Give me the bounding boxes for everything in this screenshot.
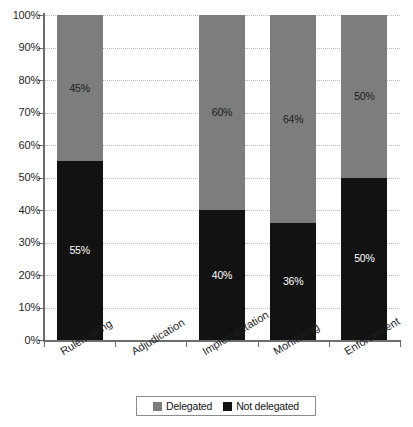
bar-segment-delegated[interactable]: 64% [270,15,316,223]
y-axis-tick-label: 100% [0,10,40,21]
legend-swatch-not-delegated-icon [223,402,232,411]
y-axis-tick-label: 20% [0,270,40,281]
y-axis-line [43,13,45,342]
legend-label-not-delegated: Not delegated [236,401,299,412]
bar-value-label: 45% [69,83,89,94]
x-axis-tick [186,340,187,347]
bar-value-label: 64% [283,114,303,125]
y-axis-tick-label: 40% [0,205,40,216]
bar-group[interactable] [128,15,174,340]
x-axis-tick [329,340,330,347]
stacked-bar-chart: 0%10%20%30%40%50%60%70%80%90%100% 55%45%… [0,0,413,427]
x-axis-tick [44,340,45,347]
bar-segment-delegated[interactable]: 45% [57,15,103,161]
bar-segment-not-delegated[interactable]: 40% [199,210,245,340]
bar-value-label: 60% [212,107,232,118]
legend-swatch-delegated-icon [153,402,162,411]
y-axis-tick-label: 50% [0,172,40,183]
legend-item-delegated: Delegated [153,401,212,412]
bar-group[interactable]: 40%60% [199,15,245,340]
y-axis-tick-label: 10% [0,302,40,313]
y-axis-tick-label: 90% [0,42,40,53]
bar-group[interactable]: 36%64% [270,15,316,340]
bar-segment-not-delegated[interactable]: 55% [57,161,103,340]
y-axis-tick-label: 60% [0,140,40,151]
bar-value-label: 36% [283,276,303,287]
x-axis-tick [400,340,401,347]
bar-value-label: 55% [69,245,89,256]
y-axis-tick-label: 0% [0,335,40,346]
y-axis-tick-label: 30% [0,237,40,248]
legend-item-not-delegated: Not delegated [223,401,299,412]
y-axis-tick-label: 70% [0,107,40,118]
bar-group[interactable]: 50%50% [341,15,387,340]
x-axis-tick [115,340,116,347]
legend-label-delegated: Delegated [166,401,212,412]
bar-value-label: 50% [354,91,374,102]
bar-segment-delegated[interactable]: 60% [199,15,245,210]
bar-value-label: 50% [354,253,374,264]
bar-segment-not-delegated[interactable]: 50% [341,178,387,341]
bar-group[interactable]: 55%45% [57,15,103,340]
y-axis-tick-label: 80% [0,75,40,86]
x-axis-tick [258,340,259,347]
bar-value-label: 40% [212,270,232,281]
bar-segment-delegated[interactable]: 50% [341,15,387,178]
chart-legend: Delegated Not delegated [136,396,316,416]
